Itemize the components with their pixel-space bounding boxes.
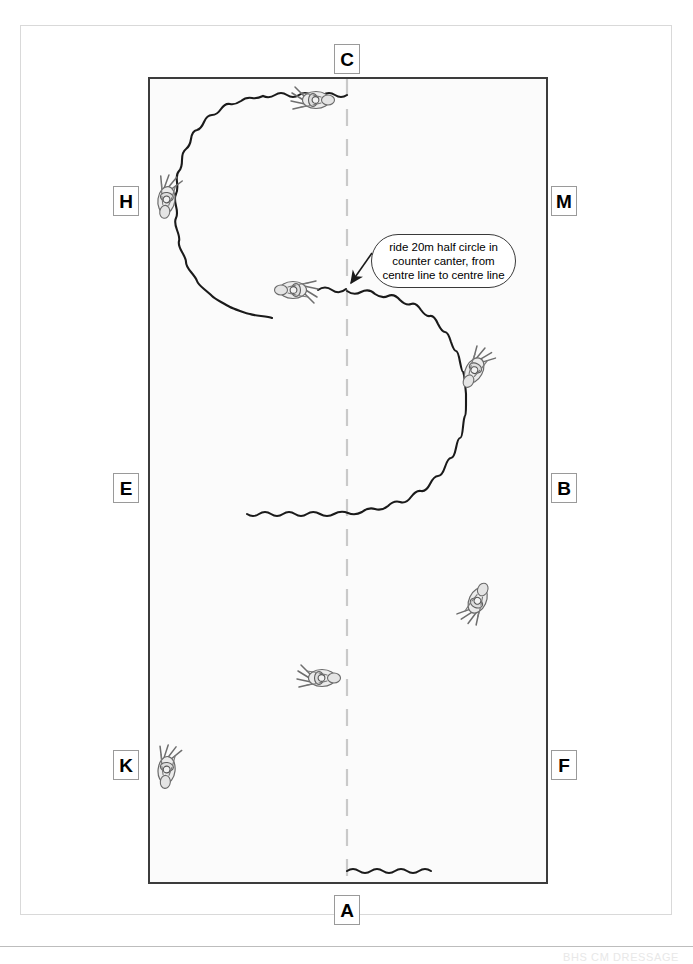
arena-marker-M: M bbox=[551, 186, 577, 216]
instruction-callout: ride 20m half circle in counter canter, … bbox=[371, 234, 516, 288]
instruction-callout-text: ride 20m half circle in counter canter, … bbox=[380, 240, 507, 282]
arena-marker-B: B bbox=[551, 473, 577, 503]
footer-text: BHS CM DRESSAGE bbox=[0, 951, 693, 964]
arena-marker-H: H bbox=[113, 186, 139, 216]
dressage-arena bbox=[148, 77, 548, 884]
arena-marker-C: C bbox=[334, 44, 360, 74]
arena-marker-K: K bbox=[113, 750, 139, 780]
arena-marker-A: A bbox=[334, 895, 360, 925]
arena-marker-E: E bbox=[113, 473, 139, 503]
footer-divider bbox=[0, 946, 693, 947]
arena-marker-F: F bbox=[551, 750, 577, 780]
